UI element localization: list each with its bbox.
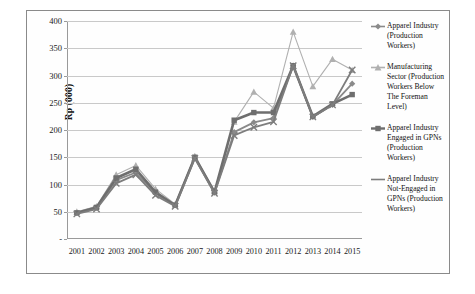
series-2	[73, 29, 355, 215]
x-axis-tick-label: 2009	[226, 247, 242, 256]
data-point	[251, 110, 256, 115]
y-axis-tick-label: 200	[49, 125, 62, 135]
legend-entry: Apparel Industry (Production Workers)	[371, 21, 445, 51]
y-axis-tick-label: 150	[49, 152, 62, 162]
chart-figure: Rp (000) 40035030025020015010050- 200120…	[26, 10, 450, 274]
legend-label: Apparel Industry Not-Engaged in GPNs (Pr…	[387, 174, 445, 214]
triangle-marker-icon	[371, 63, 385, 72]
square-marker-icon	[371, 124, 385, 133]
data-point	[290, 29, 297, 35]
x-axis-tick-label: 2010	[246, 247, 262, 256]
x-axis-tick-label: 2012	[285, 247, 301, 256]
x-axis-tick-label: 2008	[206, 247, 222, 256]
x-axis-tick-label: 2001	[69, 247, 85, 256]
x-axis-tick-label: 2015	[344, 247, 360, 256]
data-point	[231, 117, 236, 122]
x-axis-tick-label: 2013	[305, 247, 321, 256]
x-axis-tick-label: 2006	[167, 247, 183, 256]
y-axis-tick-label: 250	[49, 98, 62, 108]
diamond-marker-icon	[371, 22, 385, 31]
y-axis-tick-label: 350	[49, 43, 62, 53]
data-point	[349, 92, 354, 97]
data-point	[329, 56, 336, 62]
legend-entry: Apparel Industry Not-Engaged in GPNs (Pr…	[371, 174, 445, 214]
data-point	[250, 88, 257, 94]
x-axis-tick-label: 2011	[265, 247, 281, 256]
chart-legend: Apparel Industry (Production Workers)Man…	[371, 21, 445, 225]
y-axis-tick-label: 400	[49, 16, 62, 26]
x-axis-tick-label: 2014	[324, 247, 340, 256]
legend-entry: Apparel Industry Engaged in GPNs (Produc…	[371, 123, 445, 163]
y-axis-tick-label: 50	[54, 207, 63, 217]
legend-label: Manufacturing Sector (Production Workers…	[387, 62, 445, 112]
y-axis-tick-label: 100	[49, 180, 62, 190]
x-axis-tick-label: 2002	[88, 247, 104, 256]
x-axis-tick-label: 2005	[147, 247, 163, 256]
series-layer	[67, 21, 362, 239]
data-point	[113, 175, 118, 180]
line-marker-icon	[371, 175, 385, 184]
plot-area: 40035030025020015010050- 200120022003200…	[67, 21, 362, 239]
x-axis-tick-label: 2004	[128, 247, 144, 256]
legend-label: Apparel Industry (Production Workers)	[387, 21, 445, 51]
y-axis-tick-label: -	[59, 234, 62, 244]
y-axis-tick-mark	[64, 239, 67, 240]
x-axis-tick-label: 2007	[187, 247, 203, 256]
legend-label: Apparel Industry Engaged in GPNs (Produc…	[387, 123, 445, 163]
y-axis-tick-label: 300	[49, 71, 62, 81]
legend-entry: Manufacturing Sector (Production Workers…	[371, 62, 445, 112]
data-point	[133, 167, 138, 172]
x-axis-tick-label: 2003	[108, 247, 124, 256]
